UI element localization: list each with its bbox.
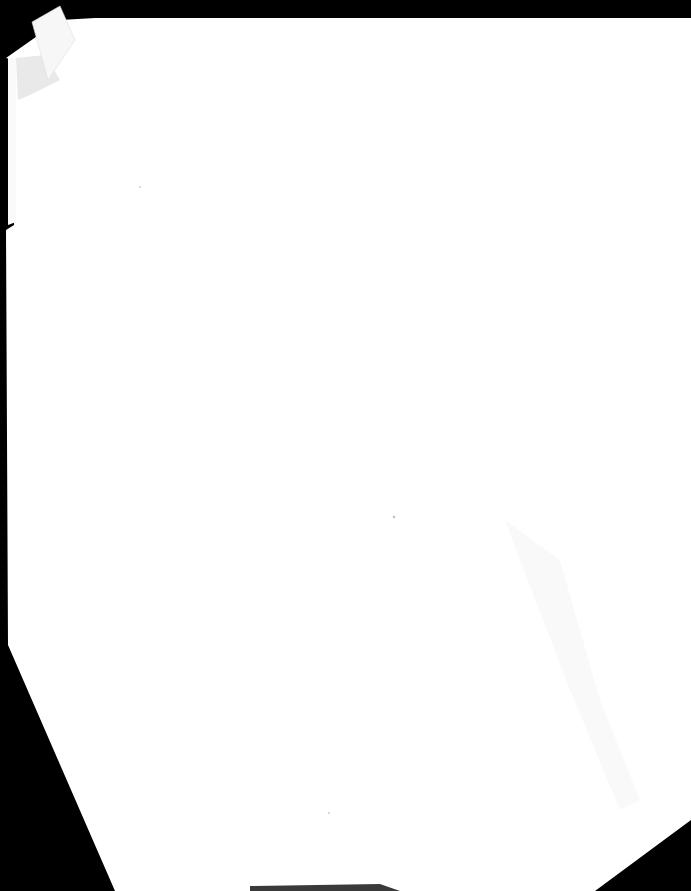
dust-speck — [139, 186, 141, 188]
scanned-document — [0, 0, 691, 891]
paper-sheet — [6, 18, 691, 891]
page-canvas — [0, 0, 691, 891]
dust-speck — [393, 516, 395, 518]
left-paper-edge — [8, 58, 16, 225]
dust-speck — [328, 812, 330, 814]
